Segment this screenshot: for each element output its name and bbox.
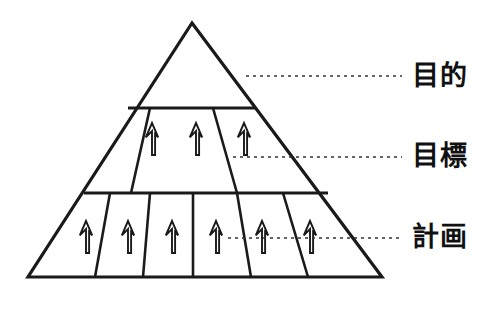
tier-label-purpose: 目的 bbox=[412, 61, 468, 90]
tier-label-plan: 計画 bbox=[412, 222, 468, 251]
pyramid-body bbox=[28, 23, 382, 277]
pyramid-diagram: 目的 目標 計画 bbox=[0, 0, 495, 309]
tier-label-goal: 目標 bbox=[412, 141, 468, 170]
pyramid-outline bbox=[28, 23, 382, 277]
